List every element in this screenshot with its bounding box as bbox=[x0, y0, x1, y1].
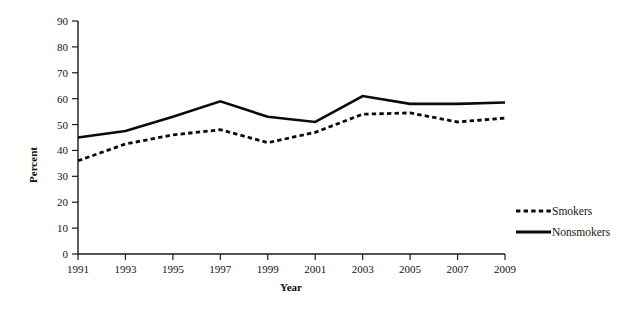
legend-label-nonsmokers: Nonsmokers bbox=[552, 226, 611, 238]
y-axis-group: 0102030405060708090 Percent bbox=[27, 15, 78, 260]
y-tick-label: 0 bbox=[63, 248, 69, 260]
x-axis-tick-marks bbox=[78, 254, 505, 260]
line-chart-figure: 0102030405060708090 Percent 199119931995… bbox=[0, 0, 636, 314]
y-axis-tick-labels: 0102030405060708090 bbox=[57, 15, 69, 260]
plot-area bbox=[78, 96, 505, 161]
y-axis-title: Percent bbox=[27, 147, 39, 183]
x-axis-group: 1991199319951997199920012003200520072009… bbox=[67, 254, 517, 293]
series-line-nonsmokers bbox=[78, 96, 505, 137]
y-tick-label: 20 bbox=[57, 196, 69, 208]
y-tick-label: 50 bbox=[57, 119, 69, 131]
y-tick-label: 80 bbox=[57, 41, 69, 53]
y-tick-label: 10 bbox=[57, 222, 69, 234]
legend: Smokers Nonsmokers bbox=[516, 205, 611, 238]
x-tick-label: 2005 bbox=[399, 263, 422, 275]
x-tick-label: 2007 bbox=[447, 263, 470, 275]
x-tick-label: 1993 bbox=[114, 263, 137, 275]
x-tick-label: 1995 bbox=[162, 263, 185, 275]
y-tick-label: 60 bbox=[57, 93, 69, 105]
x-tick-label: 1999 bbox=[257, 263, 280, 275]
x-tick-label: 2001 bbox=[304, 263, 326, 275]
x-tick-label: 1991 bbox=[67, 263, 89, 275]
y-axis-tick-marks bbox=[72, 21, 78, 254]
x-tick-label: 2009 bbox=[494, 263, 517, 275]
legend-label-smokers: Smokers bbox=[552, 205, 593, 217]
y-tick-label: 30 bbox=[57, 170, 69, 182]
x-axis-tick-labels: 1991199319951997199920012003200520072009 bbox=[67, 263, 517, 275]
x-axis-title: Year bbox=[280, 281, 302, 293]
y-tick-label: 90 bbox=[57, 15, 69, 27]
x-tick-label: 1997 bbox=[209, 263, 232, 275]
y-tick-label: 40 bbox=[57, 144, 69, 156]
x-tick-label: 2003 bbox=[352, 263, 375, 275]
y-tick-label: 70 bbox=[57, 67, 69, 79]
chart-canvas: 0102030405060708090 Percent 199119931995… bbox=[0, 0, 636, 314]
